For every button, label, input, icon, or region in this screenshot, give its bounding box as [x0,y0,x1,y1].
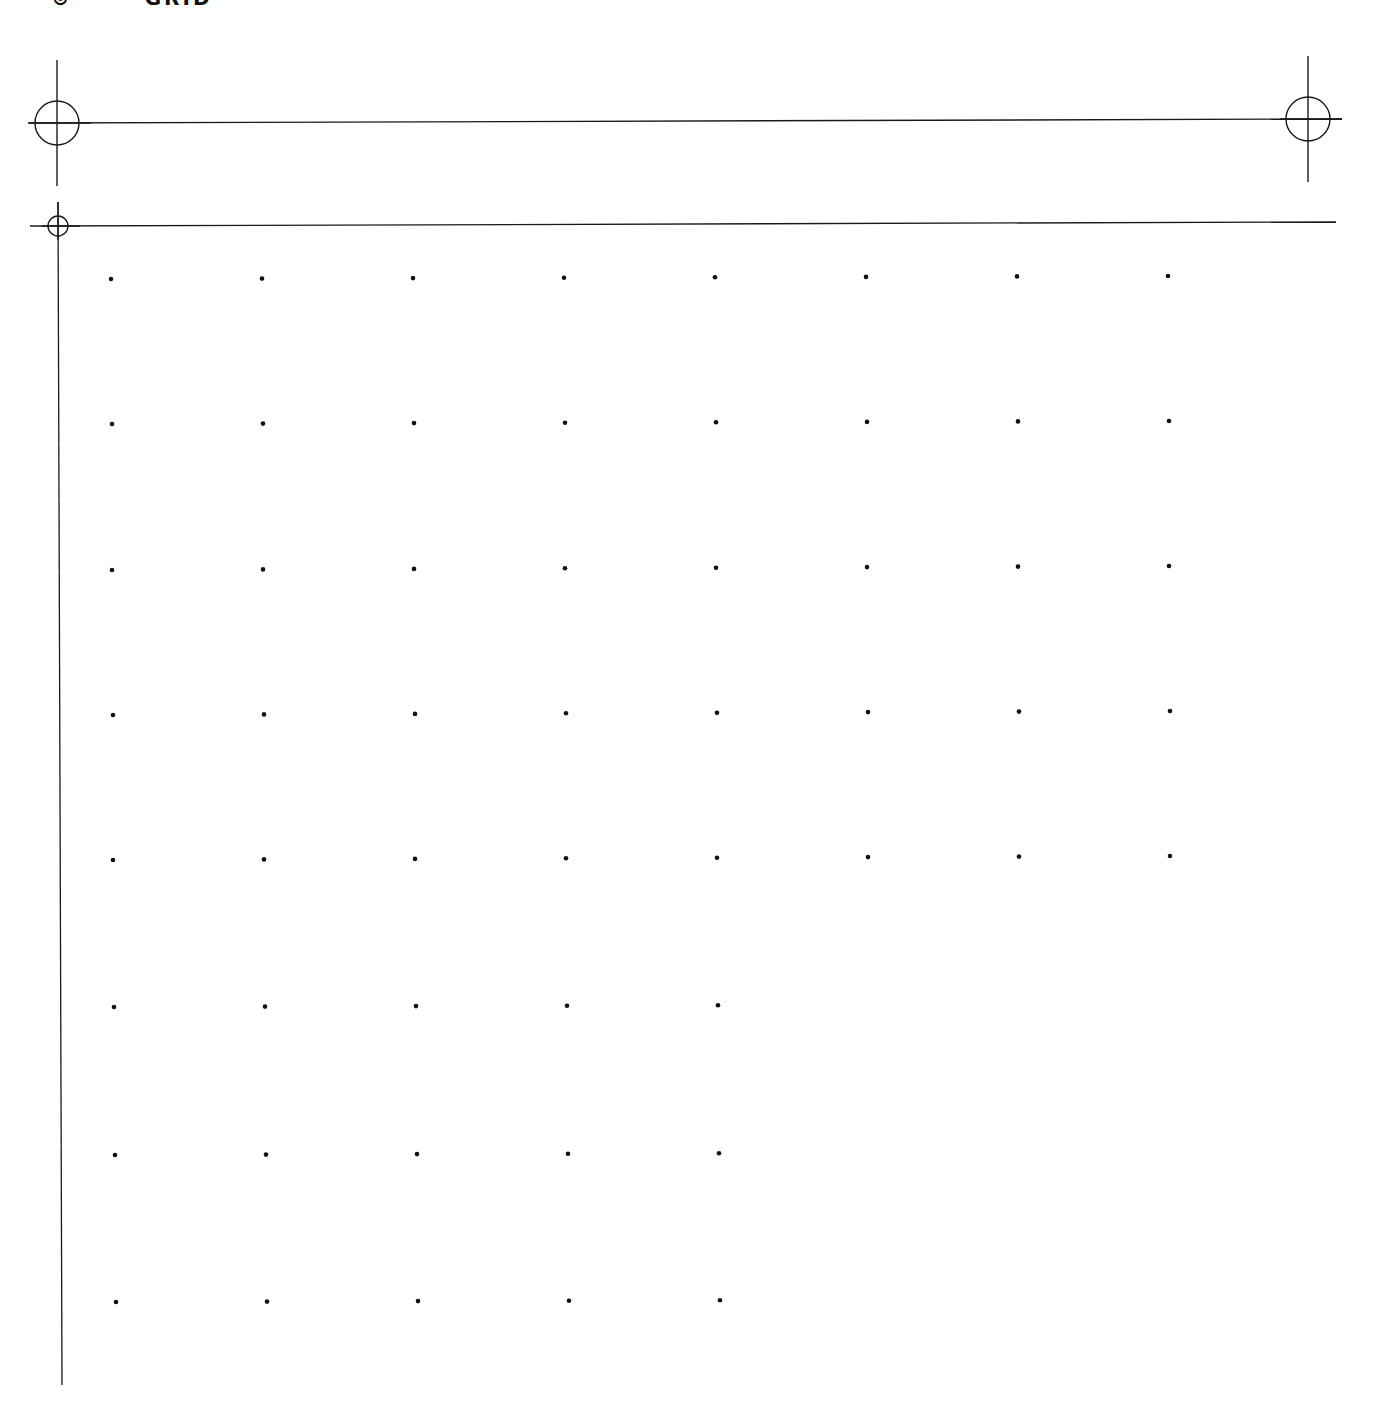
grid-dot [563,420,568,425]
grid-dot [110,422,115,427]
grid-dot [265,1299,270,1304]
grid-dot [714,565,719,570]
grid-dot [866,855,871,860]
grid-dot [111,858,116,863]
registration-mark-top-left-icon [29,60,91,186]
grid-dot [714,420,719,425]
grid-left-rule [58,202,62,1385]
grid-dot [717,1151,722,1156]
grid-dot [413,712,418,717]
grid-sheet [0,0,1380,1420]
grid-dot [1015,274,1020,279]
grid-dot [562,275,567,280]
registration-mark-top-right-icon [1280,56,1342,182]
grid-dot [109,277,114,282]
grid-dot [715,855,720,860]
grid-dot [1167,564,1172,569]
top-rule [28,119,1342,123]
grid-top-rule [30,222,1336,226]
grid-dot [1017,854,1022,859]
grid-dot [262,712,267,717]
grid-dot [1167,419,1172,424]
grid-dot [411,276,416,281]
grid-dot [113,1153,118,1158]
grid-dot [1168,854,1173,859]
grid-dot [564,711,569,716]
grid-dot [865,420,870,425]
grid-dot [260,276,265,281]
grid-dot [264,1152,269,1157]
grid-dot [716,1003,721,1008]
grid-dot [864,275,869,280]
grid-dot [110,568,115,573]
grid-dot [713,275,718,280]
dot-grid [109,274,1173,1305]
grid-dot [566,1151,571,1156]
grid-dot [564,856,569,861]
grid-dot [567,1298,572,1303]
grid-dot [415,1152,420,1157]
grid-dot [262,857,267,862]
registration-mark-grid-origin-icon [42,202,80,240]
grid-dot [414,1004,419,1009]
grid-dot [261,421,266,426]
grid-dot [565,1003,570,1008]
grid-dot [1016,419,1021,424]
grid-dot [1166,274,1171,279]
rules [28,119,1342,1385]
grid-dot [261,567,266,572]
grid-dot [412,567,417,572]
grid-dot [718,1298,723,1303]
grid-dot [114,1300,119,1305]
grid-dot [715,710,720,715]
grid-dot [563,566,568,571]
grid-dot [866,710,871,715]
grid-dot [1017,709,1022,714]
grid-dot [1168,709,1173,714]
registration-marks [29,56,1342,240]
grid-dot [865,565,870,570]
grid-dot [263,1004,268,1009]
grid-dot [413,857,418,862]
grid-dot [112,1005,117,1010]
grid-dot [111,713,116,718]
grid-dot [416,1299,421,1304]
grid-dot [1016,564,1021,569]
grid-dot [412,421,417,426]
